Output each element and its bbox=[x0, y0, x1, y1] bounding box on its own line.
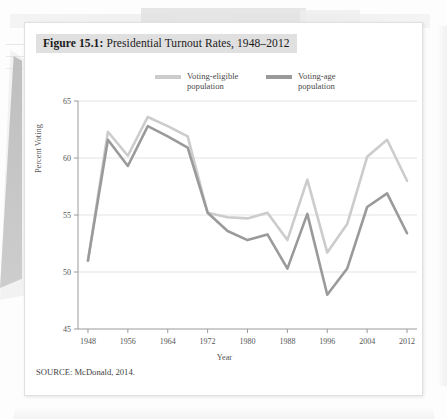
x-tick-label-2012: 2012 bbox=[399, 337, 415, 346]
y-tick-label-60: 60 bbox=[63, 154, 71, 163]
plot-area: Percent Voting 4550556065194819561964197… bbox=[25, 23, 424, 397]
y-tick-label-55: 55 bbox=[63, 211, 71, 220]
source-note: SOURCE: McDonald, 2014. bbox=[36, 367, 135, 377]
x-tick-label-1972: 1972 bbox=[200, 337, 216, 346]
x-tick-label-1948: 1948 bbox=[80, 337, 96, 346]
x-tick-label-1996: 1996 bbox=[319, 337, 335, 346]
figure-card: Figure 15.1: Presidential Turnout Rates,… bbox=[24, 22, 423, 396]
x-tick-label-1956: 1956 bbox=[120, 337, 136, 346]
x-tick-label-2004: 2004 bbox=[359, 337, 375, 346]
y-tick-label-65: 65 bbox=[63, 97, 71, 106]
x-tick-label-1980: 1980 bbox=[240, 337, 256, 346]
y-tick-label-45: 45 bbox=[63, 325, 71, 334]
page-right-edge bbox=[437, 26, 447, 386]
y-tick-label-50: 50 bbox=[63, 268, 71, 277]
x-tick-label-1988: 1988 bbox=[279, 337, 295, 346]
page-bottom-edge bbox=[14, 407, 434, 419]
chart-svg: 4550556065194819561964197219801988199620… bbox=[25, 23, 424, 397]
x-tick-label-1964: 1964 bbox=[160, 337, 176, 346]
series-line-voting-age bbox=[88, 126, 407, 295]
x-axis-label: Year bbox=[25, 353, 424, 362]
